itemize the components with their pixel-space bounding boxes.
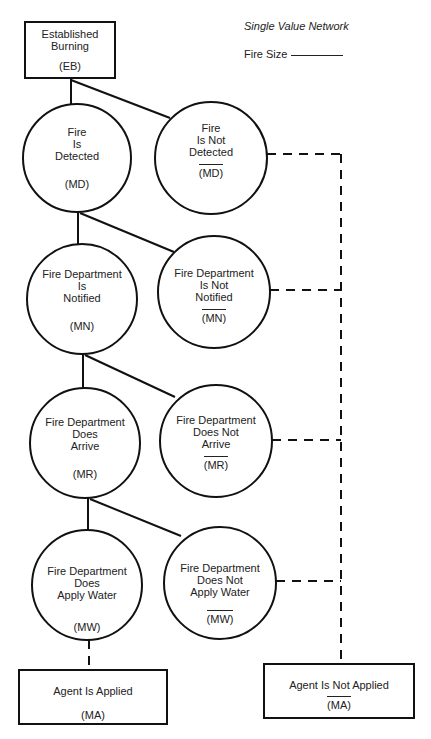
node-mn-abbr: (MN) — [27, 320, 137, 332]
node-ma: Agent Is Applied (MA) — [19, 685, 167, 721]
node-ma-abbr: (MA) — [19, 709, 167, 721]
node-mr-not: Fire Department Does Not Arrive (MR) — [161, 414, 271, 471]
node-ma-not-line1: Agent Is Not Applied — [264, 679, 414, 691]
node-mn-not-abbr: (MN) — [202, 309, 226, 324]
node-mw-not-line3: Apply Water — [165, 586, 275, 598]
node-mr-not-abbr: (MR) — [204, 456, 228, 471]
node-mn-line2: Is — [27, 280, 137, 292]
node-mn-not-line1: Fire Department — [159, 267, 269, 279]
edge-mr-mw-not — [90, 499, 181, 536]
node-md-not-abbr: (MD) — [199, 164, 223, 179]
node-md-line1: Fire — [27, 126, 127, 138]
node-mr-not-line2: Does Not — [161, 426, 271, 438]
node-mw-not-line2: Does Not — [165, 574, 275, 586]
node-mn: Fire Department Is Notified (MN) — [27, 268, 137, 332]
node-mw-line1: Fire Department — [32, 565, 142, 577]
node-mn-line3: Notified — [27, 292, 137, 304]
node-mw-line3: Apply Water — [32, 589, 142, 601]
legend-title: Single Value Network — [244, 20, 349, 32]
node-mw-not-abbr: (MW) — [207, 610, 234, 625]
node-md: Fire Is Detected (MD) — [27, 126, 127, 190]
legend: Single Value Network Fire Size — [244, 20, 349, 60]
node-mn-not-line2: Is Not — [159, 279, 269, 291]
node-md-line2: Is — [27, 138, 127, 150]
node-mw: Fire Department Does Apply Water (MW) — [32, 565, 142, 633]
legend-fire-size-line — [291, 55, 343, 56]
node-eb-line1: Established — [25, 28, 115, 40]
node-ma-not: Agent Is Not Applied (MA) — [264, 679, 414, 711]
node-md-line3: Detected — [27, 150, 127, 162]
node-eb: Established Burning (EB) — [25, 28, 115, 72]
node-mr-line3: Arrive — [30, 440, 140, 452]
node-mw-not-line1: Fire Department — [165, 562, 275, 574]
node-mw-abbr: (MW) — [32, 621, 142, 633]
node-mw-not: Fire Department Does Not Apply Water (MW… — [165, 562, 275, 625]
node-ma-not-abbr: (MA) — [327, 696, 351, 711]
node-md-not-line2: Is Not — [161, 134, 261, 146]
node-mn-not-line3: Notified — [159, 291, 269, 303]
node-mr-not-line3: Arrive — [161, 438, 271, 450]
node-mn-line1: Fire Department — [27, 268, 137, 280]
node-mr-line1: Fire Department — [30, 416, 140, 428]
node-md-abbr: (MD) — [27, 178, 127, 190]
node-mr-not-line1: Fire Department — [161, 414, 271, 426]
node-mn-not: Fire Department Is Not Notified (MN) — [159, 267, 269, 324]
node-md-not-line1: Fire — [161, 122, 261, 134]
legend-fire-size: Fire Size — [244, 48, 349, 60]
node-ma-line1: Agent Is Applied — [19, 685, 167, 697]
node-eb-abbr: (EB) — [25, 60, 115, 72]
node-mr-abbr: (MR) — [30, 468, 140, 480]
node-mw-line2: Does — [32, 577, 142, 589]
node-eb-line2: Burning — [25, 40, 115, 52]
node-md-not: Fire Is Not Detected (MD) — [161, 122, 261, 179]
legend-fire-size-label: Fire Size — [244, 48, 287, 60]
node-md-not-line3: Detected — [161, 146, 261, 158]
node-mr-line2: Does — [30, 428, 140, 440]
node-mr: Fire Department Does Arrive (MR) — [30, 416, 140, 480]
